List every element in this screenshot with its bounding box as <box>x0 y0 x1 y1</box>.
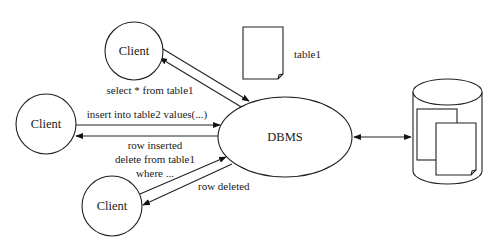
row-inserted-label: row inserted <box>128 139 183 151</box>
client-top-label: Client <box>119 44 150 58</box>
stored-document-front-icon <box>436 123 476 175</box>
dbms-client-diagram: Client Client Client DBMS table1 select … <box>0 0 498 248</box>
client-bottom-node: Client <box>82 176 142 236</box>
row-deleted-label: row deleted <box>198 180 250 192</box>
dbms-label: DBMS <box>267 130 302 144</box>
client-left-node: Client <box>16 94 76 154</box>
select-query-label: select * from table1 <box>106 84 193 96</box>
edge-select-response-arrow <box>160 58 243 108</box>
client-bottom-label: Client <box>97 199 128 213</box>
dbms-node: DBMS <box>218 97 352 177</box>
insert-query-label: insert into table2 values(...) <box>87 108 208 121</box>
database-cylinder-icon <box>413 79 482 184</box>
client-left-label: Client <box>31 117 62 131</box>
delete-query-label-line1: delete from table1 <box>115 153 195 165</box>
table-document-label: table1 <box>294 48 321 60</box>
delete-query-label-line2: where ... <box>136 167 174 179</box>
client-top-node: Client <box>105 22 163 80</box>
table-document-icon <box>243 27 283 79</box>
